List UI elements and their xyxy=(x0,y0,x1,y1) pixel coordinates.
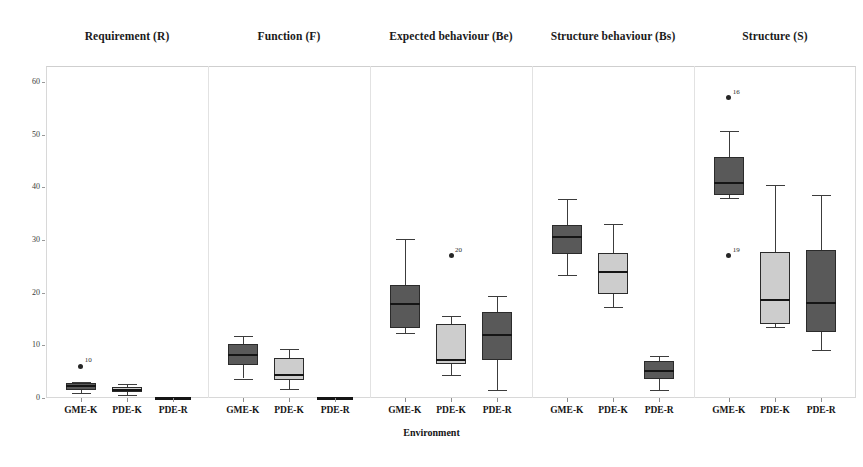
whisker-upper xyxy=(497,296,498,312)
y-tick-mark-20 xyxy=(42,293,45,294)
median-line xyxy=(112,389,142,391)
whisker-lower xyxy=(613,294,614,307)
x-tick-mark xyxy=(567,398,568,402)
y-tick-mark-30 xyxy=(42,240,45,241)
y-tick-mark-0 xyxy=(42,398,45,399)
median-line xyxy=(66,385,96,387)
box-iqr xyxy=(714,157,744,194)
whisker-lower xyxy=(243,365,244,378)
y-tick-label-30: 30 xyxy=(18,235,40,244)
whisker-upper xyxy=(613,224,614,252)
outlier-label: 19 xyxy=(733,246,740,254)
whisker-cap-lower xyxy=(812,350,831,351)
whisker-cap-upper xyxy=(558,199,577,200)
outlier-label: 20 xyxy=(455,246,462,254)
outlier-label: 16 xyxy=(733,88,740,96)
whisker-upper xyxy=(243,336,244,343)
x-tick-mark xyxy=(405,398,406,402)
x-tick-mark xyxy=(821,398,822,402)
whisker-lower xyxy=(567,254,568,275)
y-tick-mark-40 xyxy=(42,187,45,188)
x-tick-mark xyxy=(127,398,128,402)
whisker-cap-lower xyxy=(442,375,461,376)
box-iqr xyxy=(482,312,512,360)
whisker-cap-upper xyxy=(766,185,785,186)
whisker-cap-upper xyxy=(720,131,739,132)
median-line xyxy=(436,359,466,361)
x-tick-mark xyxy=(243,398,244,402)
outlier-label: 10 xyxy=(85,356,92,364)
y-tick-label-60: 60 xyxy=(18,77,40,86)
median-line xyxy=(228,354,258,356)
whisker-cap-lower xyxy=(558,275,577,276)
panel-title-2: Function (F) xyxy=(208,30,370,42)
box-iqr xyxy=(390,285,420,328)
x-axis-title: Environment xyxy=(0,427,863,438)
whisker-cap-lower xyxy=(604,307,623,308)
x-tick-label-pde-r: PDE-R xyxy=(629,405,689,415)
panel-title-5: Structure (S) xyxy=(694,30,856,42)
whisker-lower xyxy=(659,379,660,390)
x-tick-mark xyxy=(613,398,614,402)
median-line xyxy=(274,374,304,376)
x-tick-label-pde-r: PDE-R xyxy=(143,405,203,415)
x-tick-mark xyxy=(775,398,776,402)
whisker-cap-upper xyxy=(234,336,253,337)
whisker-cap-upper xyxy=(812,195,831,196)
whisker-cap-upper xyxy=(442,316,461,317)
x-tick-label-pde-r: PDE-R xyxy=(791,405,851,415)
box-iqr xyxy=(806,250,836,332)
whisker-lower xyxy=(497,360,498,390)
whisker-cap-lower xyxy=(118,395,137,396)
panel-title-1: Requirement (R) xyxy=(46,30,208,42)
whisker-cap-upper xyxy=(604,224,623,225)
x-tick-mark xyxy=(659,398,660,402)
whisker-cap-lower xyxy=(396,333,415,334)
box-iqr xyxy=(760,252,790,324)
y-tick-mark-60 xyxy=(42,82,45,83)
whisker-cap-upper xyxy=(396,239,415,240)
y-tick-mark-10 xyxy=(42,345,45,346)
panel-divider-3 xyxy=(532,66,533,398)
outlier-point xyxy=(449,253,454,258)
x-tick-mark xyxy=(335,398,336,402)
whisker-cap-lower xyxy=(234,379,253,380)
whisker-lower xyxy=(821,332,822,350)
x-tick-label-pde-r: PDE-R xyxy=(467,405,527,415)
x-tick-mark xyxy=(729,398,730,402)
x-tick-mark xyxy=(451,398,452,402)
panel-title-3: Expected behaviour (Be) xyxy=(370,30,532,42)
y-tick-label-10: 10 xyxy=(18,340,40,349)
median-line xyxy=(760,299,790,301)
y-tick-mark-50 xyxy=(42,135,45,136)
panel-divider-2 xyxy=(370,66,371,398)
median-line xyxy=(552,236,582,238)
whisker-upper xyxy=(729,131,730,157)
panel-title-4: Structure behaviour (Bs) xyxy=(532,30,694,42)
median-line xyxy=(644,370,674,372)
x-tick-mark xyxy=(173,398,174,402)
whisker-cap-upper xyxy=(650,356,669,357)
whisker-cap-upper xyxy=(280,349,299,350)
median-line xyxy=(390,303,420,305)
x-tick-mark xyxy=(289,398,290,402)
median-line xyxy=(806,302,836,304)
whisker-lower xyxy=(451,364,452,375)
median-line xyxy=(482,334,512,336)
x-tick-mark xyxy=(497,398,498,402)
panel-divider-1 xyxy=(208,66,209,398)
whisker-cap-upper xyxy=(118,384,137,385)
box-iqr xyxy=(552,225,582,254)
whisker-upper xyxy=(775,185,776,252)
y-tick-label-40: 40 xyxy=(18,182,40,191)
whisker-upper xyxy=(451,316,452,324)
whisker-cap-lower xyxy=(650,390,669,391)
median-line xyxy=(598,271,628,273)
median-line xyxy=(714,182,744,184)
boxplot-figure: Requirement (R)Function (F)Expected beha… xyxy=(0,0,863,467)
whisker-upper xyxy=(567,199,568,225)
whisker-upper xyxy=(405,239,406,285)
box-iqr xyxy=(598,253,628,295)
y-tick-label-0: 0 xyxy=(18,393,40,402)
whisker-upper xyxy=(289,349,290,358)
